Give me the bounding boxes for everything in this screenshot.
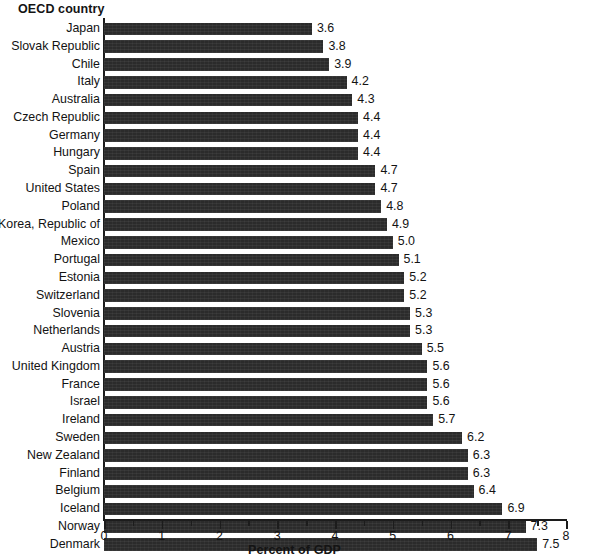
- x-axis-minor-tick: [537, 521, 539, 526]
- bar-value-label: 4.7: [375, 162, 397, 180]
- x-axis-major-tick: [451, 521, 453, 529]
- bar-value-label: 5.3: [410, 322, 432, 340]
- bar-value-label: 5.7: [433, 411, 455, 429]
- bar: [104, 272, 404, 285]
- x-axis-major-tick: [335, 521, 337, 529]
- category-label: Belgium: [0, 482, 100, 500]
- category-label: Ireland: [0, 411, 100, 429]
- category-label: Sweden: [0, 429, 100, 447]
- bar-row: New Zealand6.3: [0, 447, 589, 465]
- category-label: Portugal: [0, 251, 100, 269]
- bar-value-label: 5.2: [404, 269, 426, 287]
- bar: [104, 129, 358, 142]
- bar-row: Spain4.7: [0, 162, 589, 180]
- bar-value-label: 4.4: [358, 144, 380, 162]
- bar: [104, 183, 375, 196]
- x-axis-major-tick: [220, 521, 222, 529]
- bar: [104, 23, 312, 36]
- bar-row: Australia4.3: [0, 91, 589, 109]
- bar: [104, 112, 358, 125]
- bar-row: Chile3.9: [0, 56, 589, 74]
- bar: [104, 236, 393, 249]
- category-label: Germany: [0, 127, 100, 145]
- bar: [104, 289, 404, 302]
- bar-value-label: 6.9: [502, 500, 524, 518]
- bar-value-label: 3.9: [329, 56, 351, 74]
- bar-value-label: 6.3: [468, 465, 490, 483]
- bar: [104, 147, 358, 160]
- bar: [104, 94, 352, 107]
- category-label: Chile: [0, 56, 100, 74]
- bar-row: Estonia5.2: [0, 269, 589, 287]
- x-axis-minor-tick: [422, 521, 424, 526]
- category-label: United States: [0, 180, 100, 198]
- bar-row: United States4.7: [0, 180, 589, 198]
- bar-value-label: 5.0: [393, 233, 415, 251]
- bar-row: Portugal5.1: [0, 251, 589, 269]
- plot-area: Japan3.6Slovak Republic3.8Chile3.9Italy4…: [0, 0, 589, 557]
- bar-row: Germany4.4: [0, 127, 589, 145]
- bar: [104, 520, 526, 533]
- x-axis-major-tick: [508, 521, 510, 529]
- bar-row: Japan3.6: [0, 20, 589, 38]
- category-label: United Kingdom: [0, 358, 100, 376]
- category-label: Slovak Republic: [0, 38, 100, 56]
- bar: [104, 254, 399, 267]
- bar-row: Czech Republic4.4: [0, 109, 589, 127]
- bar: [104, 378, 427, 391]
- bar-value-label: 6.2: [462, 429, 484, 447]
- x-axis-minor-tick: [133, 521, 135, 526]
- bar-row: Slovak Republic3.8: [0, 38, 589, 56]
- category-label: Italy: [0, 73, 100, 91]
- x-axis-tick-label: 8: [563, 529, 570, 543]
- category-label: Slovenia: [0, 305, 100, 323]
- bar-row: Korea, Republic of4.9: [0, 216, 589, 234]
- category-label: Poland: [0, 198, 100, 216]
- category-label: Netherlands: [0, 322, 100, 340]
- bar: [104, 432, 462, 445]
- x-axis-minor-tick: [248, 521, 250, 526]
- bar: [104, 165, 375, 178]
- x-axis-minor-tick: [364, 521, 366, 526]
- category-label: Japan: [0, 20, 100, 38]
- bar-value-label: 5.6: [427, 393, 449, 411]
- category-label: Spain: [0, 162, 100, 180]
- bar-row: France5.6: [0, 376, 589, 394]
- bar-value-label: 6.3: [468, 447, 490, 465]
- x-axis-title: Percent of GDP: [0, 543, 589, 557]
- bar-value-label: 5.6: [427, 358, 449, 376]
- bar-row: Netherlands5.3: [0, 322, 589, 340]
- x-axis-tick-label: 7: [505, 529, 512, 543]
- bar-row: Switzerland5.2: [0, 287, 589, 305]
- category-label: Estonia: [0, 269, 100, 287]
- bar-value-label: 4.4: [358, 127, 380, 145]
- x-axis-tick-label: 2: [216, 529, 223, 543]
- category-label: Finland: [0, 465, 100, 483]
- bar: [104, 218, 387, 231]
- category-label: Australia: [0, 91, 100, 109]
- bar: [104, 40, 323, 53]
- bar: [104, 200, 381, 213]
- x-axis-tick-label: 5: [389, 529, 396, 543]
- bar: [104, 503, 502, 516]
- bar-row: Poland4.8: [0, 198, 589, 216]
- bar-row: Italy4.2: [0, 73, 589, 91]
- bar-value-label: 4.9: [387, 216, 409, 234]
- bar-row: Finland6.3: [0, 465, 589, 483]
- bar-value-label: 4.4: [358, 109, 380, 127]
- bar: [104, 307, 410, 320]
- bar-value-label: 5.1: [399, 251, 421, 269]
- bar-row: Mexico5.0: [0, 233, 589, 251]
- bar-row: United Kingdom5.6: [0, 358, 589, 376]
- bar-value-label: 4.8: [381, 198, 403, 216]
- x-axis-major-tick: [393, 521, 395, 529]
- bar: [104, 76, 347, 89]
- category-label: Korea, Republic of: [0, 216, 100, 234]
- x-axis-tick-label: 1: [158, 529, 165, 543]
- category-label: Austria: [0, 340, 100, 358]
- bar: [104, 58, 329, 71]
- bar: [104, 396, 427, 409]
- x-axis-minor-tick: [191, 521, 193, 526]
- category-label: Norway: [0, 518, 100, 536]
- bar-value-label: 5.2: [404, 287, 426, 305]
